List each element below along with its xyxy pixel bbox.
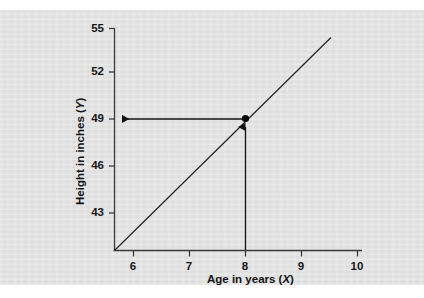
x-axis-title: Age in years (X) [207, 274, 294, 286]
y-tick-label-52: 52 [78, 66, 104, 78]
y-tick-marks [109, 29, 115, 214]
y-tick-label-43: 43 [78, 207, 104, 219]
x-axis-variable: X [282, 273, 290, 285]
regression-chart-figure: 55 52 49 46 43 6 7 8 9 10 Height in inch… [0, 0, 424, 298]
x-tick-label-9: 9 [288, 261, 314, 273]
y-axis-title: Height in inches (Y) [75, 98, 87, 205]
regression-line [115, 38, 331, 251]
x-tick-label-7: 7 [176, 261, 202, 273]
y-axis-title-text: Height in inches [74, 116, 86, 205]
plot-canvas [0, 0, 424, 298]
x-tick-marks [134, 251, 358, 257]
y-axis-variable: Y [74, 101, 86, 109]
x-tick-label-6: 6 [120, 261, 146, 273]
y-tick-label-55: 55 [78, 23, 104, 35]
x-tick-label-8: 8 [232, 261, 258, 273]
x-axis-title-text: Age in years [207, 273, 275, 285]
data-point-marker [242, 115, 249, 122]
x-tick-label-10: 10 [344, 261, 370, 273]
